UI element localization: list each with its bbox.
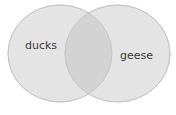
venn-diagram: ducks geese	[0, 0, 176, 115]
label-ducks: ducks	[25, 39, 57, 52]
label-geese: geese	[120, 49, 153, 62]
